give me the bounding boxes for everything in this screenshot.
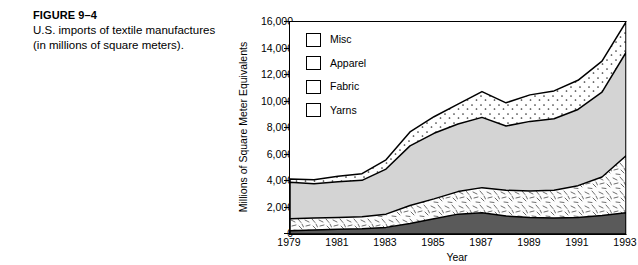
legend-swatch-yarns [306,103,321,117]
legend-item-misc: Misc [306,30,366,49]
legend-label-misc: Misc [330,34,352,45]
x-axis-label: Year [289,251,625,263]
legend-swatch-apparel [306,56,321,70]
x-tick-label: 1989 [517,236,540,248]
figure-number: FIGURE 9–4 [33,8,223,22]
x-tick-label: 1991 [565,236,588,248]
legend-label-yarns: Yarns [330,105,357,116]
legend-swatch-misc [306,33,321,47]
legend-item-yarns: Yarns [306,101,366,120]
legend-label-fabric: Fabric [330,81,359,92]
legend-label-apparel: Apparel [330,58,366,69]
chart-legend: Misc Apparel Fabric Yarns [306,30,366,124]
y-tick-label: 4,000 [233,174,293,186]
x-tick-label: 1993 [613,236,636,248]
figure-panel: FIGURE 9–4 U.S. imports of textile manuf… [0,0,638,265]
x-tick-label: 1983 [373,236,396,248]
y-tick-label: 12,000 [233,68,293,80]
figure-caption-block: FIGURE 9–4 U.S. imports of textile manuf… [33,8,223,52]
x-tick-label: 1981 [325,236,348,248]
y-tick-label: 2,000 [233,201,293,213]
y-tick-label: 8,000 [233,121,293,133]
figure-caption-text: U.S. imports of textile manufactures (in… [33,23,223,52]
y-tick-label: 14,000 [233,42,293,54]
legend-item-apparel: Apparel [306,54,366,73]
y-tick-label: 10,000 [233,95,293,107]
legend-swatch-fabric [306,80,321,94]
legend-item-fabric: Fabric [306,77,366,96]
x-tick-label: 1987 [469,236,492,248]
y-tick-label: 6,000 [233,148,293,160]
stacked-area-chart: Millions of Square Meter Equivalents 16,… [236,8,634,260]
x-tick-label: 1985 [421,236,444,248]
x-tick-label: 1979 [277,236,300,248]
y-tick-label: 16,000 [233,15,293,27]
